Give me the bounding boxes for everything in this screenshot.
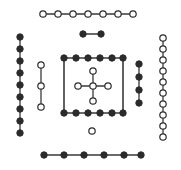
- graph-node-filled: [109, 55, 115, 61]
- graph-node-open: [160, 134, 166, 140]
- graph-node-filled: [98, 31, 104, 37]
- graph-node-filled: [80, 31, 86, 37]
- graph-node-open: [130, 11, 136, 17]
- graph-node-open: [160, 79, 166, 85]
- graph-node-open: [160, 57, 166, 63]
- graph-node-open: [90, 68, 96, 74]
- graph-node-filled: [73, 110, 79, 116]
- graph-node-filled: [17, 118, 23, 124]
- graph-node-filled: [17, 82, 23, 88]
- component-nodes-left-column: [17, 34, 23, 136]
- graph-node-filled: [136, 74, 142, 80]
- graph-node-filled: [17, 106, 23, 112]
- graph-node-filled: [61, 110, 67, 116]
- graph-node-filled: [136, 87, 142, 93]
- graph-node-open: [89, 128, 95, 134]
- node-link-diagram: [0, 0, 181, 170]
- graph-node-open: [115, 11, 121, 17]
- graph-node-filled: [17, 34, 23, 40]
- component-nodes-isolated-node: [89, 128, 95, 134]
- graph-node-filled: [121, 152, 127, 158]
- graph-node-filled: [17, 70, 23, 76]
- graph-node-filled: [17, 58, 23, 64]
- graph-node-open: [85, 11, 91, 17]
- graph-node-filled: [109, 110, 115, 116]
- graph-node-filled: [120, 55, 126, 61]
- graph-node-filled: [97, 110, 103, 116]
- graph-node-open: [160, 101, 166, 107]
- graph-node-open: [160, 46, 166, 52]
- graph-node-filled: [136, 61, 142, 67]
- graph-node-open: [75, 83, 81, 89]
- graph-node-open: [38, 62, 44, 68]
- graph-node-open: [38, 104, 44, 110]
- graph-node-filled: [73, 55, 79, 61]
- graph-node-open: [55, 11, 61, 17]
- graph-node-filled: [101, 152, 107, 158]
- graph-node-open: [40, 11, 46, 17]
- graph-node-filled: [61, 152, 67, 158]
- graph-node-open: [90, 98, 96, 104]
- graph-node-filled: [120, 110, 126, 116]
- graph-node-open: [160, 90, 166, 96]
- graph-node-filled: [41, 152, 47, 158]
- graph-node-open: [105, 83, 111, 89]
- graph-node-open: [38, 83, 44, 89]
- graph-node-open: [70, 11, 76, 17]
- graph-node-open: [160, 112, 166, 118]
- graph-node-open: [90, 83, 96, 89]
- graph-node-open: [100, 11, 106, 17]
- graph-node-open: [160, 68, 166, 74]
- graph-node-filled: [17, 130, 23, 136]
- graph-node-filled: [17, 94, 23, 100]
- graph-node-filled: [85, 110, 91, 116]
- graph-node-filled: [61, 55, 67, 61]
- graph-node-filled: [136, 100, 142, 106]
- graph-figure: [0, 0, 181, 170]
- graph-node-filled: [97, 55, 103, 61]
- graph-node-filled: [138, 152, 144, 158]
- graph-node-open: [160, 123, 166, 129]
- graph-node-filled: [81, 152, 87, 158]
- graph-node-open: [160, 35, 166, 41]
- graph-node-filled: [17, 46, 23, 52]
- graph-node-filled: [85, 55, 91, 61]
